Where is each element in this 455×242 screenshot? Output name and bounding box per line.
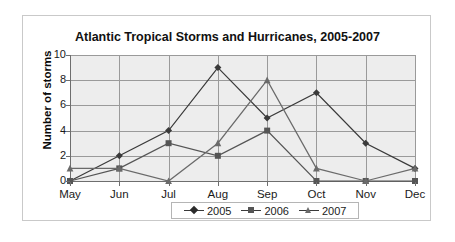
x-tick-label: Oct	[291, 188, 341, 200]
y-tick-label: 0	[44, 175, 66, 186]
data-point-square	[264, 128, 270, 134]
legend-item-2005: 2005	[184, 205, 231, 217]
x-tick-label: Dec	[390, 188, 440, 200]
x-tick-mark	[415, 182, 416, 186]
y-tick-label: 2	[44, 150, 66, 161]
gridline-vertical	[415, 55, 416, 181]
x-tick-mark	[267, 182, 268, 186]
x-tick-mark	[169, 182, 170, 186]
data-point-square	[166, 140, 172, 146]
data-point-triangle	[264, 77, 271, 84]
x-tick-mark	[316, 182, 317, 186]
legend-label: 2007	[322, 205, 346, 217]
y-tick-labels: 0246810	[42, 55, 66, 181]
y-tick-mark	[66, 156, 70, 157]
legend-item-2007: 2007	[299, 205, 346, 217]
legend-marker-triangle-icon	[299, 205, 319, 216]
chart-figure: Atlantic Tropical Storms and Hurricanes,…	[22, 15, 431, 221]
y-tick-mark	[66, 105, 70, 106]
data-point-square	[215, 153, 221, 159]
y-tick-label: 8	[44, 74, 66, 85]
x-tick-mark	[366, 182, 367, 186]
x-tick-mark	[119, 182, 120, 186]
legend-item-2006: 2006	[241, 205, 288, 217]
x-tick-label: Sep	[242, 188, 292, 200]
x-tick-mark	[70, 182, 71, 186]
series-plot	[70, 55, 415, 181]
y-tick-label: 10	[44, 49, 66, 60]
x-tick-label: Nov	[341, 188, 391, 200]
y-tick-mark	[66, 131, 70, 132]
legend-marker-diamond-icon	[184, 205, 204, 216]
legend-label: 2006	[264, 205, 288, 217]
y-tick-label: 4	[44, 125, 66, 136]
chart-title: Atlantic Tropical Storms and Hurricanes,…	[23, 30, 432, 44]
y-tick-mark	[66, 55, 70, 56]
x-tick-label: Jun	[94, 188, 144, 200]
legend-label: 2005	[207, 205, 231, 217]
series-line	[70, 68, 415, 181]
legend-marker-square-icon	[241, 205, 261, 216]
chart-legend: 2005 2006 2007	[171, 202, 359, 219]
x-tick-mark	[218, 182, 219, 186]
data-point-diamond	[116, 152, 123, 159]
y-tick-label: 6	[44, 99, 66, 110]
x-tick-label: Jul	[144, 188, 194, 200]
x-tick-label: May	[45, 188, 95, 200]
x-tick-label: Aug	[193, 188, 243, 200]
y-tick-mark	[66, 80, 70, 81]
data-point-triangle	[313, 165, 320, 172]
